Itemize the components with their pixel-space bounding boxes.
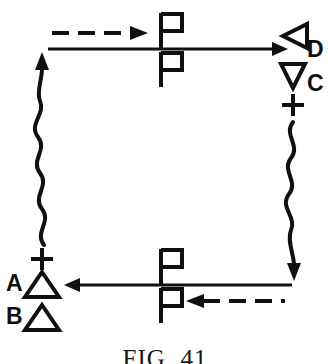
cycle-diagram [0, 0, 330, 364]
figure-caption: FIG. 41 [0, 345, 330, 364]
right-wavy-arrow-head [287, 263, 301, 281]
flag-banner [161, 289, 182, 306]
top-flag-above-icon [161, 13, 182, 48]
left-wavy-arrow [35, 52, 49, 245]
node-B-up-triangle-icon [25, 305, 59, 330]
node-A-up-triangle-icon [25, 272, 59, 297]
flag-banner [161, 53, 182, 70]
node-label-B: B [6, 305, 23, 328]
bottom-dashed-arrow [186, 294, 285, 308]
left-wavy-arrow-shaft [35, 69, 45, 245]
top-solid-arrow-head [272, 42, 288, 56]
right-wavy-arrow [286, 122, 301, 281]
bottom-dashed-arrow-head [186, 294, 204, 308]
right-plus-icon [282, 94, 304, 116]
node-label-C: C [307, 72, 324, 95]
left-plus-icon [31, 248, 53, 270]
node-C-down-triangle-icon [281, 64, 305, 88]
node-D-left-triangle-icon [283, 24, 307, 48]
node-label-D: D [307, 38, 324, 61]
flag-banner [161, 14, 182, 31]
right-wavy-arrow-shaft [286, 122, 294, 264]
bottom-flag-below-icon [161, 288, 182, 323]
top-dashed-arrow [52, 26, 148, 40]
flag-banner [161, 250, 182, 267]
bottom-flag-above-icon [161, 249, 182, 284]
top-dashed-arrow-head [130, 26, 148, 40]
top-flag-below-icon [161, 52, 182, 87]
left-wavy-arrow-head [35, 52, 49, 70]
node-label-A: A [6, 272, 23, 295]
bottom-solid-arrow-head [64, 278, 80, 292]
figure-panel: A B C D FIG. 41 [0, 0, 330, 364]
